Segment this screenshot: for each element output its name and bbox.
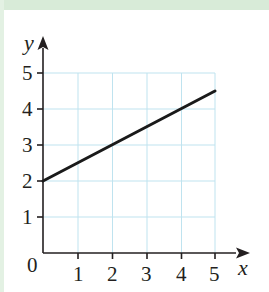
x-tick-label: 5 <box>209 262 220 286</box>
y-tick-label: 1 <box>22 205 33 229</box>
x-tick-label: 3 <box>141 262 152 286</box>
y-tick-label: 2 <box>22 169 33 193</box>
x-tick-label: 4 <box>176 262 187 286</box>
axes <box>37 48 236 259</box>
origin-label: 0 <box>27 253 38 277</box>
x-tick-label: 1 <box>73 262 84 286</box>
line-chart: 5 4 3 2 1 0 1 2 3 4 5 y x <box>0 0 269 292</box>
y-tick-label: 4 <box>22 97 33 121</box>
y-axis-label: y <box>22 30 34 55</box>
data-line <box>43 91 215 181</box>
y-tick-label: 5 <box>22 61 33 85</box>
y-tick-label: 3 <box>22 133 33 157</box>
grid <box>43 73 215 253</box>
x-axis-label: x <box>237 255 248 280</box>
y-axis-arrow-icon <box>38 36 49 50</box>
x-tick-label: 2 <box>107 262 118 286</box>
